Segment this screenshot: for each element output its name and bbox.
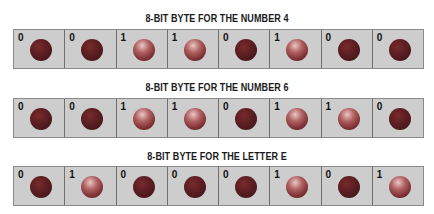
bit-value-label: 1 bbox=[274, 169, 280, 180]
bit-value-label: 1 bbox=[326, 101, 332, 112]
unlit-bulb-icon bbox=[338, 39, 360, 61]
bit-value-label: 0 bbox=[18, 32, 24, 43]
bit-cell: 1 bbox=[270, 167, 321, 205]
unlit-bulb-icon bbox=[235, 108, 257, 130]
lit-bulb-icon bbox=[286, 176, 308, 198]
unlit-bulb-icon bbox=[133, 176, 155, 198]
bit-cell: 1 bbox=[270, 99, 321, 137]
lit-bulb-icon bbox=[81, 176, 103, 198]
byte-strip-number-4: 00110100 bbox=[13, 29, 424, 69]
unlit-bulb-icon bbox=[30, 108, 52, 130]
bit-cell: 1 bbox=[117, 30, 168, 68]
bit-value-label: 0 bbox=[377, 101, 383, 112]
bit-value-label: 1 bbox=[121, 32, 127, 43]
bit-cell: 1 bbox=[270, 30, 321, 68]
bit-value-label: 0 bbox=[377, 32, 383, 43]
unlit-bulb-icon bbox=[81, 39, 103, 61]
bit-value-label: 0 bbox=[69, 101, 75, 112]
bit-value-label: 1 bbox=[377, 169, 383, 180]
bit-cell: 1 bbox=[168, 30, 219, 68]
bit-value-label: 0 bbox=[223, 101, 229, 112]
bit-cell: 1 bbox=[65, 167, 116, 205]
bit-value-label: 0 bbox=[172, 169, 178, 180]
bit-cell: 0 bbox=[219, 99, 270, 137]
bit-value-label: 0 bbox=[326, 32, 332, 43]
unlit-bulb-icon bbox=[30, 39, 52, 61]
bit-value-label: 0 bbox=[69, 32, 75, 43]
bit-cell: 0 bbox=[168, 167, 219, 205]
unlit-bulb-icon bbox=[235, 176, 257, 198]
unlit-bulb-icon bbox=[389, 108, 411, 130]
bit-cell: 0 bbox=[14, 99, 65, 137]
byte-strip-letter-e: 01000101 bbox=[13, 166, 424, 206]
bit-cell: 1 bbox=[117, 99, 168, 137]
bit-cell: 0 bbox=[219, 30, 270, 68]
bit-value-label: 1 bbox=[274, 32, 280, 43]
bit-value-label: 0 bbox=[18, 101, 24, 112]
unlit-bulb-icon bbox=[184, 176, 206, 198]
bit-value-label: 0 bbox=[121, 169, 127, 180]
byte-strip-number-6: 00110110 bbox=[13, 98, 424, 138]
unlit-bulb-icon bbox=[338, 176, 360, 198]
lit-bulb-icon bbox=[184, 39, 206, 61]
lit-bulb-icon bbox=[133, 39, 155, 61]
bit-cell: 0 bbox=[219, 167, 270, 205]
bit-cell: 0 bbox=[14, 30, 65, 68]
bit-cell: 0 bbox=[373, 99, 423, 137]
lit-bulb-icon bbox=[184, 108, 206, 130]
bit-cell: 1 bbox=[168, 99, 219, 137]
bit-cell: 0 bbox=[322, 167, 373, 205]
bit-cell: 1 bbox=[373, 167, 423, 205]
bit-cell: 1 bbox=[322, 99, 373, 137]
bit-value-label: 0 bbox=[326, 169, 332, 180]
bit-value-label: 1 bbox=[172, 32, 178, 43]
bit-value-label: 0 bbox=[223, 169, 229, 180]
lit-bulb-icon bbox=[389, 176, 411, 198]
bit-value-label: 1 bbox=[172, 101, 178, 112]
bit-value-label: 1 bbox=[69, 169, 75, 180]
bit-cell: 0 bbox=[117, 167, 168, 205]
bit-cell: 0 bbox=[65, 99, 116, 137]
bit-value-label: 1 bbox=[121, 101, 127, 112]
bit-cell: 0 bbox=[322, 30, 373, 68]
bit-cell: 0 bbox=[373, 30, 423, 68]
unlit-bulb-icon bbox=[30, 176, 52, 198]
bit-value-label: 0 bbox=[223, 32, 229, 43]
bit-value-label: 1 bbox=[274, 101, 280, 112]
byte-title-number-6: 8-BIT BYTE FOR THE NUMBER 6 bbox=[39, 81, 395, 93]
lit-bulb-icon bbox=[286, 39, 308, 61]
unlit-bulb-icon bbox=[235, 39, 257, 61]
bit-value-label: 0 bbox=[18, 169, 24, 180]
byte-title-number-4: 8-BIT BYTE FOR THE NUMBER 4 bbox=[39, 12, 395, 24]
bit-cell: 0 bbox=[65, 30, 116, 68]
lit-bulb-icon bbox=[338, 108, 360, 130]
unlit-bulb-icon bbox=[81, 108, 103, 130]
bit-cell: 0 bbox=[14, 167, 65, 205]
lit-bulb-icon bbox=[133, 108, 155, 130]
lit-bulb-icon bbox=[286, 108, 308, 130]
byte-title-letter-e: 8-BIT BYTE FOR THE LETTER E bbox=[39, 150, 395, 162]
unlit-bulb-icon bbox=[389, 39, 411, 61]
